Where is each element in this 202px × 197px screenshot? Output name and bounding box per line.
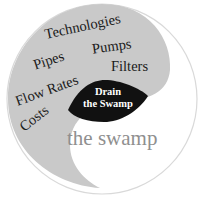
drain-the-swamp-diagram: Technologies Pumps Pipes Filters Flow Ra… [0,0,202,197]
swamp-label: the swamp [67,126,157,151]
label-filters: Filters [111,58,148,75]
center-label-line1: Drain [78,86,138,98]
center-label-line2: the Swamp [78,98,138,110]
center-label: Drain the Swamp [78,86,138,110]
